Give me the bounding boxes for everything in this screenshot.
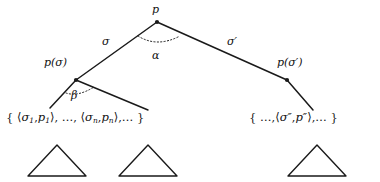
left-set-open-brace: {	[6, 110, 13, 124]
subtree-triangle-2	[119, 145, 177, 176]
tree-diagram-figure: p σ σ′ α β p(σ) p(σ′) { ⟨σ1,p1⟩, …, ⟨σn,…	[0, 0, 380, 182]
right-branch-label: σ′	[227, 36, 237, 47]
left-set-sep1: ,	[54, 110, 58, 124]
left-set-pair1-sigma-sub: 1	[29, 116, 34, 125]
right-set-pair-sigma: σ″	[280, 110, 292, 124]
edge-root-to-left-child	[76, 22, 157, 80]
right-set-ellipsis1: …	[260, 110, 272, 124]
node-dot-right-child	[285, 78, 289, 82]
right-set-ellipsis2: …	[315, 110, 327, 124]
root-node-label: p	[152, 4, 159, 15]
angle-arc-alpha	[138, 36, 180, 42]
subtree-triangle-3	[288, 145, 346, 176]
left-set-ellipsis1: …	[62, 110, 74, 124]
left-node-angle-label: β	[71, 90, 77, 101]
left-set-close-brace: }	[137, 110, 144, 124]
edge-left-child-to-subtree-2	[76, 80, 148, 110]
left-set-pair1-p-sub: 1	[45, 116, 50, 125]
right-set-open-brace: {	[249, 110, 256, 124]
left-set-ellipsis2: …	[122, 110, 134, 124]
node-dot-root	[155, 20, 159, 24]
edge-right-child-to-subtree-3	[287, 80, 313, 110]
left-set-notation: { ⟨σ1,p1⟩, …, ⟨σn,pn⟩,… }	[6, 112, 144, 124]
left-set-pair2-sigma: σ	[85, 110, 93, 124]
left-set-sep2: ,	[73, 110, 77, 124]
left-branch-label: σ	[102, 36, 110, 47]
tree-graphics	[0, 0, 380, 182]
right-child-node-label: p(σ′)	[277, 57, 303, 68]
right-set-notation: { …,⟨σ″,p″⟩,… }	[249, 112, 338, 124]
right-set-close-brace: }	[330, 110, 337, 124]
left-child-node-label: p(σ)	[44, 57, 67, 68]
root-angle-label: α	[152, 50, 159, 61]
right-set-pair-p: p″	[295, 110, 307, 124]
left-set-pair2-p: p	[101, 110, 108, 124]
left-set-pair2-p-sub: n	[109, 116, 114, 125]
node-dot-left-child	[74, 78, 78, 82]
left-set-pair2-sigma-sub: n	[93, 116, 98, 125]
subtree-triangle-1	[28, 145, 86, 176]
edge-root-to-right-child	[157, 22, 287, 80]
